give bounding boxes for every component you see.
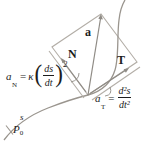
start-point-label: P0 — [13, 124, 23, 137]
normal-acceleration-formula: aN = κ ( ds dt ) 2 — [6, 63, 67, 88]
aT-equals: = — [108, 92, 114, 104]
aN-fraction: ds dt — [43, 63, 54, 88]
aT-fraction-denominator: dt² — [119, 98, 130, 110]
aN-exponent: 2 — [63, 60, 67, 69]
tangent-vector-label: T — [117, 54, 125, 66]
aT-subscript: T — [101, 103, 105, 111]
aN-fraction-denominator: dt — [45, 76, 53, 88]
kappa-symbol: κ — [28, 70, 33, 82]
aT-fraction-numerator: d²s — [118, 85, 132, 98]
tangential-acceleration-formula: aT = d²s dt² — [95, 85, 132, 110]
aN-open-paren: ( — [35, 65, 43, 87]
normal-vector-label: N — [68, 48, 77, 60]
aT-base: a — [95, 92, 101, 104]
start-point-subscript: 0 — [20, 129, 24, 137]
aN-fraction-numerator: ds — [43, 63, 54, 76]
aT-fraction: d²s dt² — [118, 85, 132, 110]
arc-length-param-label: s — [20, 113, 24, 122]
aN-close-paren: ) — [55, 65, 63, 87]
aN-subscript: N — [12, 81, 17, 89]
aN-base: a — [6, 70, 12, 82]
acceleration-components-diagram: N a T aN = κ ( ds dt ) 2 aT = d²s dt² s … — [0, 0, 159, 156]
acceleration-vector-label: a — [85, 26, 91, 38]
start-point-base: P — [13, 123, 20, 135]
aN-equals: = — [20, 70, 26, 82]
tangent-vector-arrowhead — [124, 68, 129, 73]
